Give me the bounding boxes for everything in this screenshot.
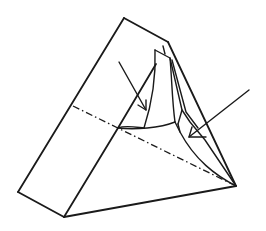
- right-arrow-icon: [189, 90, 249, 137]
- inner-flap-left: [118, 46, 175, 129]
- fold-line: [73, 106, 234, 185]
- prism-outline: [18, 18, 236, 217]
- folded-prism-drawing: [0, 0, 266, 231]
- diagram-canvas: [0, 0, 266, 231]
